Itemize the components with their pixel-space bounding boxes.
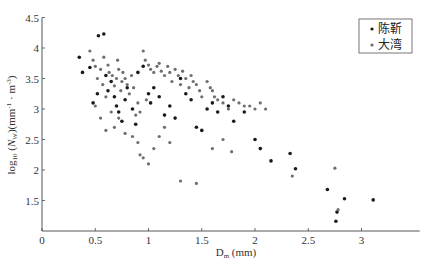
data-point: [99, 117, 102, 120]
data-point: [144, 59, 147, 62]
data-point: [110, 110, 113, 113]
data-point: [243, 104, 246, 107]
data-point: [132, 86, 135, 89]
y-tick-label: 3.5: [25, 73, 39, 85]
data-point: [337, 208, 340, 211]
scatter-chart: 00.511.522.531.522.533.544.5 陈靳 大湾 Dm (m…: [0, 0, 428, 269]
data-point: [96, 92, 100, 96]
data-point: [149, 101, 153, 105]
data-point: [113, 95, 117, 99]
data-point: [88, 49, 91, 52]
data-point: [343, 197, 347, 201]
data-point: [288, 152, 292, 156]
data-point: [160, 70, 163, 73]
data-point: [181, 70, 184, 73]
data-point: [102, 32, 106, 36]
data-point: [88, 66, 92, 70]
data-point: [158, 62, 161, 65]
data-point: [174, 68, 177, 71]
data-point: [264, 107, 267, 110]
data-point: [128, 92, 131, 95]
data-point: [189, 98, 193, 102]
x-tick-label: 2: [252, 234, 258, 246]
data-point: [131, 135, 134, 138]
data-point: [253, 107, 256, 110]
data-point: [109, 80, 113, 84]
data-point: [211, 101, 215, 105]
data-point: [198, 89, 201, 92]
data-point: [115, 104, 119, 108]
data-point: [102, 56, 105, 59]
data-point: [117, 110, 121, 114]
data-point: [184, 92, 188, 96]
data-point: [333, 167, 336, 170]
legend: 陈靳 大湾: [359, 19, 412, 53]
data-point: [177, 74, 180, 77]
data-point: [248, 104, 251, 107]
data-point: [168, 71, 171, 74]
data-point: [119, 89, 122, 92]
data-point: [106, 64, 109, 67]
data-point: [195, 182, 198, 185]
data-point: [111, 74, 114, 77]
data-point: [142, 156, 145, 159]
x-tick-label: 3: [359, 234, 365, 246]
data-point: [99, 68, 102, 71]
data-point: [124, 132, 127, 135]
data-point: [78, 55, 82, 59]
data-point: [200, 129, 204, 133]
data-point: [227, 104, 231, 108]
data-point: [259, 101, 262, 104]
data-point: [294, 167, 298, 171]
data-point: [170, 80, 173, 83]
data-point: [221, 138, 224, 141]
data-point: [211, 147, 214, 150]
y-tick-label: 4: [34, 42, 40, 54]
data-point: [232, 98, 235, 101]
data-point: [94, 104, 97, 107]
data-point: [152, 86, 156, 90]
data-point: [243, 110, 247, 114]
data-point: [221, 101, 224, 104]
data-point: [259, 147, 263, 151]
data-point: [253, 138, 257, 142]
data-point: [227, 107, 230, 110]
data-point: [269, 159, 273, 163]
data-point: [104, 129, 107, 132]
data-point: [141, 65, 145, 69]
data-point: [205, 107, 209, 111]
data-point: [131, 107, 135, 111]
data-point: [232, 119, 236, 123]
data-point: [145, 98, 148, 101]
data-point: [81, 71, 85, 75]
data-point: [221, 95, 225, 99]
x-axis-title: Dm (mm): [216, 246, 257, 260]
data-point: [115, 77, 118, 80]
data-point: [371, 198, 375, 202]
data-point: [116, 59, 119, 62]
y-tick-label: 4.5: [25, 12, 39, 24]
data-point: [147, 64, 150, 67]
legend-marker-series-1: [370, 27, 373, 30]
data-point: [168, 141, 171, 144]
data-point: [334, 219, 338, 223]
x-tick-label: 0: [39, 234, 45, 246]
data-point: [108, 71, 111, 74]
y-tick-label: 2.5: [25, 134, 39, 146]
data-point: [97, 34, 101, 38]
data-point: [158, 135, 161, 138]
data-point: [190, 74, 193, 77]
data-point: [106, 89, 110, 93]
legend-label-series-1: 陈靳: [378, 21, 402, 36]
data-point: [147, 162, 150, 165]
data-point: [123, 98, 127, 102]
data-point: [173, 116, 177, 120]
data-point: [211, 89, 214, 92]
data-point: [216, 110, 220, 114]
data-point: [163, 126, 166, 129]
data-point: [117, 117, 120, 120]
legend-label-series-2: 大湾: [378, 37, 402, 52]
data-point: [138, 110, 141, 113]
data-point: [121, 71, 124, 74]
data-point: [200, 95, 203, 98]
